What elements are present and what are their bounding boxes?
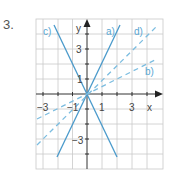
- coordinate-graph: y x 3 1 −3 −3 −1 1 3 a) b) c) d): [0, 0, 169, 177]
- x-tick-label: −1: [67, 102, 79, 113]
- y-axis-arrow-icon: [84, 19, 91, 27]
- line-label-b: b): [145, 66, 154, 77]
- y-tick-label: 1: [77, 74, 83, 85]
- x-tick-label: 1: [99, 102, 105, 113]
- axes: [36, 24, 158, 169]
- y-axis-label: y: [76, 23, 81, 34]
- line-label-d: d): [134, 26, 143, 37]
- x-tick-label: −3: [37, 102, 49, 113]
- line-label-a: a): [106, 26, 115, 37]
- line-c: [54, 25, 117, 157]
- line-label-c: c): [43, 26, 51, 37]
- y-tick-label: −3: [72, 135, 84, 146]
- line-d: [37, 27, 156, 145]
- x-tick-label: 3: [129, 102, 135, 113]
- line-b: [37, 60, 155, 119]
- x-axis-label: x: [147, 102, 152, 113]
- function-lines: [37, 25, 156, 157]
- y-tick-label: 3: [76, 44, 82, 55]
- x-axis-arrow-icon: [155, 91, 163, 98]
- line-a: [57, 25, 120, 157]
